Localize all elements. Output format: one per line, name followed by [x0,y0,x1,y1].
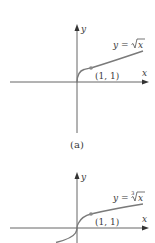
x-axis-label: x [142,214,147,224]
point-1-1-marker [89,66,93,70]
y-axis-arrow-icon [75,24,80,31]
caption-a: (a) [70,139,84,150]
root-index: 3 [131,190,134,196]
point-label: (1, 1) [95,71,119,81]
y-axis-label: y [80,172,87,182]
function-label-var: x [138,40,143,50]
x-axis-arrow-icon [142,226,149,231]
root-functions-figure: y x (1, 1) y = x (a) y x (1, 1) y = 3 x [0,0,155,243]
x-axis-arrow-icon [142,80,149,85]
function-label: y = [112,193,129,203]
y-axis-arrow-icon [75,172,80,179]
point-label: (1, 1) [95,217,119,227]
function-label: y = [112,40,129,50]
graph-cbrt: y x (1, 1) y = 3 x [10,172,149,243]
x-axis-label: x [142,68,147,78]
function-label-var: x [138,193,143,203]
graph-sqrt: y x (1, 1) y = x (a) [10,24,149,150]
y-axis-label: y [80,24,87,34]
point-1-1-marker [89,212,93,216]
